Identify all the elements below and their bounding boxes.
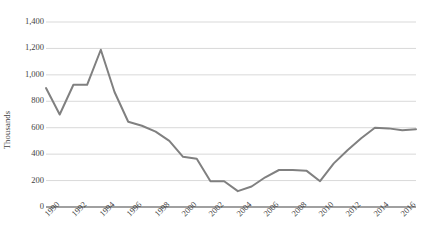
data-line [46,50,416,191]
plot-area [0,0,422,242]
data-series-group [46,50,416,191]
line-chart: Thousands 02004006008001,0001,2001,400 1… [0,0,422,242]
gridlines [46,22,416,181]
